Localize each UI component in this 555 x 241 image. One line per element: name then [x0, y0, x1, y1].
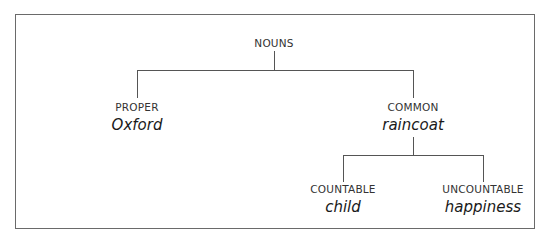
node-countable: COUNTABLE child: [310, 183, 375, 217]
connector-common-stem: [413, 137, 414, 155]
connector-root-stem: [274, 51, 275, 70]
connector-to-countable: [343, 155, 344, 182]
node-common: COMMON raincoat: [382, 101, 444, 135]
node-example-uncountable: happiness: [442, 198, 523, 217]
node-label-countable: COUNTABLE: [310, 183, 375, 196]
node-label-common: COMMON: [382, 101, 444, 114]
connector-common-branch: [343, 155, 484, 156]
node-label-proper: PROPER: [112, 101, 163, 114]
node-label-nouns: NOUNS: [254, 37, 293, 50]
node-nouns: NOUNS: [254, 37, 293, 50]
node-uncountable: UNCOUNTABLE happiness: [442, 183, 523, 217]
node-example-common: raincoat: [382, 116, 444, 135]
node-label-uncountable: UNCOUNTABLE: [442, 183, 523, 196]
connector-root-branch: [137, 70, 414, 71]
connector-to-uncountable: [483, 155, 484, 182]
connector-to-common: [413, 70, 414, 98]
connector-to-proper: [137, 70, 138, 98]
node-example-countable: child: [310, 198, 375, 217]
node-example-proper: Oxford: [112, 116, 163, 135]
node-proper: PROPER Oxford: [112, 101, 163, 135]
